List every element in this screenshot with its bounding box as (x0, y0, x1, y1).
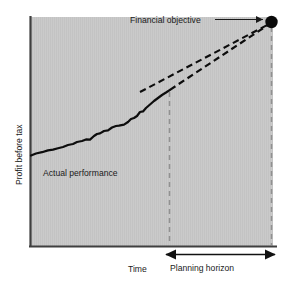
actual-performance-label: Actual performance (43, 168, 118, 178)
financial-objective-label: Financial objective (130, 15, 201, 25)
y-axis-label: Profit before tax (14, 124, 24, 185)
plot-background (31, 17, 273, 246)
planning-horizon-label: Planning horizon (170, 263, 234, 273)
chart-svg: Financial objective Actual performance P… (0, 0, 286, 281)
x-axis-label: Time (128, 264, 147, 274)
chart-figure: Financial objective Actual performance P… (0, 0, 286, 281)
financial-objective-marker (265, 16, 277, 28)
